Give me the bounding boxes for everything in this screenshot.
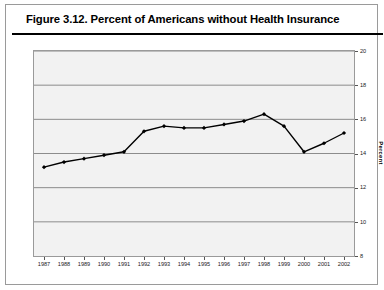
- x-axis-tick-label: 1994: [178, 261, 190, 267]
- x-axis-tick-mark: [324, 257, 325, 260]
- x-axis-tick-mark: [124, 257, 125, 260]
- chart-title: Figure 3.12. Percent of Americans withou…: [26, 13, 366, 25]
- data-series-line: [44, 114, 344, 167]
- x-axis-tick-label: 2000: [298, 261, 310, 267]
- x-axis-tick-mark: [144, 257, 145, 260]
- x-axis-tick-mark: [84, 257, 85, 260]
- y-axis-tick-mark: [355, 119, 358, 120]
- x-axis-tick-label: 1992: [138, 261, 150, 267]
- x-axis-tick-mark: [284, 257, 285, 260]
- x-axis-tick-label: 1990: [98, 261, 110, 267]
- x-axis-tick-label: 1993: [158, 261, 170, 267]
- data-point-marker: [82, 157, 86, 161]
- x-axis-tick-mark: [64, 257, 65, 260]
- x-axis-tick-label: 1995: [198, 261, 210, 267]
- y-axis-tick-mark: [355, 188, 358, 189]
- x-axis-tick-label: 2001: [318, 261, 330, 267]
- y-axis-tick-label: 8: [360, 253, 363, 259]
- x-axis-tick-mark: [264, 257, 265, 260]
- data-point-marker: [182, 126, 186, 130]
- x-axis-tick-mark: [204, 257, 205, 260]
- x-axis-tick-mark: [344, 257, 345, 260]
- y-axis-tick-mark: [355, 256, 358, 257]
- x-axis-tick-mark: [304, 257, 305, 260]
- y-axis-tick-mark: [355, 51, 358, 52]
- line-chart-svg: [34, 51, 354, 256]
- x-axis-tick-label: 1998: [258, 261, 270, 267]
- figure-frame: Figure 3.12. Percent of Americans withou…: [5, 4, 378, 285]
- x-axis-tick-label: 2002: [338, 261, 350, 267]
- x-axis-tick-mark: [244, 257, 245, 260]
- x-axis-tick-label: 1987: [38, 261, 50, 267]
- x-axis-tick-label: 1999: [278, 261, 290, 267]
- x-axis-tick-label: 1997: [238, 261, 250, 267]
- data-point-marker: [202, 126, 206, 130]
- x-axis-tick-mark: [184, 257, 185, 260]
- data-point-marker: [222, 122, 226, 126]
- y-axis-tick-mark: [355, 222, 358, 223]
- x-axis-tick-mark: [104, 257, 105, 260]
- data-point-marker: [162, 124, 166, 128]
- x-axis-tick-label: 1996: [218, 261, 230, 267]
- x-axis-tick-mark: [224, 257, 225, 260]
- gridlines: [34, 51, 354, 222]
- x-axis-tick-label: 1989: [78, 261, 90, 267]
- data-point-marker: [62, 160, 66, 164]
- y-axis-tick-label: 18: [360, 82, 366, 88]
- y-axis-title: Percent: [378, 141, 384, 164]
- title-divider: [12, 33, 383, 35]
- y-axis-tick-mark: [355, 154, 358, 155]
- data-point-markers: [42, 112, 346, 169]
- y-axis-tick-label: 16: [360, 116, 366, 122]
- y-axis-tick-mark: [355, 85, 358, 86]
- y-axis-tick-label: 14: [360, 150, 366, 156]
- y-axis-tick-label: 20: [360, 48, 366, 54]
- data-point-marker: [42, 165, 46, 169]
- x-axis-tick-mark: [164, 257, 165, 260]
- x-axis-tick-label: 1991: [118, 261, 130, 267]
- plot-area: [33, 50, 355, 257]
- y-axis-tick-label: 12: [360, 184, 366, 190]
- x-axis-tick-mark: [44, 257, 45, 260]
- x-axis-tick-label: 1988: [58, 261, 70, 267]
- y-axis-tick-label: 10: [360, 219, 366, 225]
